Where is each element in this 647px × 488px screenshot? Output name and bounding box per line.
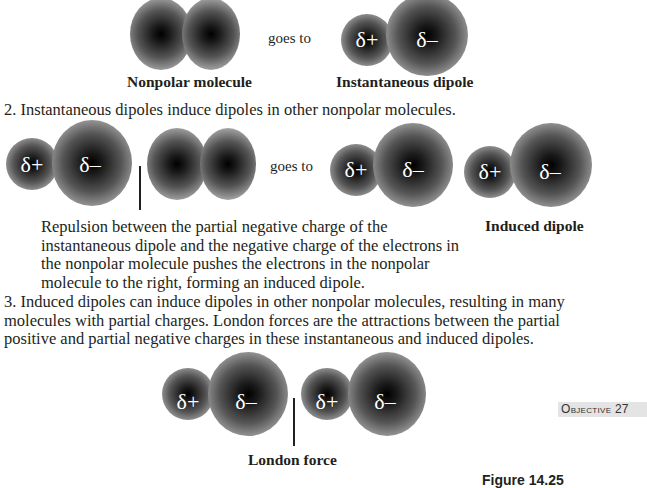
goes-to-label: goes to (270, 158, 313, 175)
partial-positive-label: δ+ (177, 391, 200, 413)
instantaneous-dipole-caption: Instantaneous dipole (336, 73, 473, 91)
partial-positive-label: δ+ (356, 29, 379, 51)
partial-negative-label: δ– (79, 154, 100, 176)
repulsion-pointer-line (139, 166, 141, 210)
nonpolar-molecule-caption: Nonpolar molecule (127, 73, 252, 91)
london-force-caption: London force (248, 451, 337, 469)
partial-negative-label: δ– (374, 391, 395, 413)
induced-dipole-caption: Induced dipole (485, 217, 584, 235)
electron-cloud-left (147, 128, 207, 200)
goes-to-label: goes to (268, 30, 311, 47)
step3-text: 3. Induced dipoles can induce dipoles in… (4, 293, 586, 349)
partial-negative-label: δ– (416, 29, 437, 51)
repulsion-explanation: Repulsion between the partial negative c… (41, 218, 473, 292)
partial-positive-label: δ+ (21, 154, 44, 176)
partial-negative-label: δ– (235, 391, 256, 413)
electron-cloud-right (182, 0, 240, 70)
partial-positive-label: δ+ (316, 391, 339, 413)
electron-cloud-right (200, 128, 256, 200)
objective-badge: Objective 27 (558, 402, 647, 417)
step2-heading: 2. Instantaneous dipoles induce dipoles … (4, 101, 644, 120)
partial-negative-label: δ– (402, 159, 423, 181)
london-force-pointer-line (293, 398, 295, 446)
partial-positive-label: δ+ (345, 159, 368, 181)
partial-positive-label: δ+ (479, 161, 502, 183)
figure-label: Figure 14.25 (482, 472, 564, 488)
partial-negative-label: δ– (539, 161, 560, 183)
